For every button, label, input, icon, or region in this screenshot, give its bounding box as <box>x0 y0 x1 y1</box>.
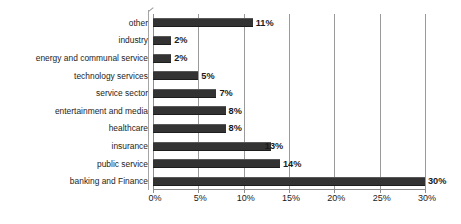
tick-mark-5pct <box>198 189 199 193</box>
tick-mark-25pct <box>380 189 381 193</box>
bar <box>153 18 253 27</box>
value-axis-tick-label: 0% <box>148 193 161 204</box>
gridline-25pct <box>380 14 381 190</box>
tick-mark-20pct <box>334 189 335 193</box>
category-label: banking and Finance <box>0 176 148 186</box>
bar-value-label: 5% <box>201 71 214 81</box>
bar <box>153 54 171 63</box>
value-axis-tick-label: 10% <box>237 193 255 204</box>
bar <box>153 36 171 45</box>
category-label: industry <box>0 35 148 45</box>
category-label: other <box>0 18 148 28</box>
value-axis-tick-label: 5% <box>194 193 207 204</box>
bar <box>153 89 216 98</box>
bar <box>153 71 198 80</box>
tick-mark-30pct <box>425 189 426 193</box>
gridline-30pct <box>425 14 426 190</box>
bar <box>153 142 271 151</box>
category-label: insurance <box>0 141 148 151</box>
bar-chart: otherindustryenergy and communal service… <box>0 0 461 224</box>
value-axis: 0%5%10%15%20%25%30% <box>0 193 461 213</box>
category-label: public service <box>0 159 148 169</box>
bar <box>153 124 226 133</box>
category-label: healthcare <box>0 123 148 133</box>
category-label: technology services <box>0 71 148 81</box>
value-axis-tick-label: 20% <box>327 193 345 204</box>
value-axis-tick-label: 30% <box>418 193 436 204</box>
gridline-20pct <box>334 14 335 190</box>
bar-value-label: 30% <box>428 176 446 186</box>
tick-mark-10pct <box>244 189 245 193</box>
bar-value-label: 2% <box>174 53 187 63</box>
bar-value-label: 14% <box>283 159 301 169</box>
bar-value-label: 2% <box>174 35 187 45</box>
value-axis-tick-label: 25% <box>373 193 391 204</box>
plot-frame-left-edge <box>148 10 149 190</box>
bar-value-label: 7% <box>219 88 232 98</box>
bar-value-label: 13% <box>265 141 283 151</box>
category-label: service sector <box>0 88 148 98</box>
tick-mark-15pct <box>289 189 290 193</box>
category-label: energy and communal service <box>0 53 148 63</box>
bar-value-label: 8% <box>229 123 242 133</box>
plot-frame-skew-top <box>148 7 153 12</box>
bar <box>153 177 425 186</box>
bar <box>153 106 226 115</box>
bar-value-label: 11% <box>256 18 274 28</box>
bar-value-label: 8% <box>229 106 242 116</box>
bar <box>153 159 280 168</box>
value-axis-tick-label: 15% <box>282 193 300 204</box>
tick-mark-0pct <box>153 189 154 193</box>
category-label: entertainment and media <box>0 106 148 116</box>
category-axis: otherindustryenergy and communal service… <box>0 14 148 190</box>
